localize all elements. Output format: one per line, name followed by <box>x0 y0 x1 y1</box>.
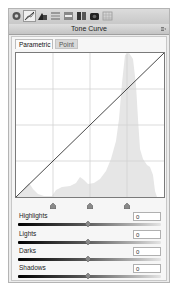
presets-icon[interactable] <box>102 11 113 21</box>
panel-menu-icon[interactable] <box>161 27 166 31</box>
panel-toolbar <box>9 9 169 25</box>
lights-value-input[interactable]: 0 <box>133 230 161 239</box>
shadows-label: Shadows <box>19 264 46 271</box>
lights-label: Lights <box>19 230 36 237</box>
panel-title-bar: Tone Curve <box>9 24 169 35</box>
lens-corrections-icon[interactable] <box>76 11 87 21</box>
panel-content: Parametric Point <box>11 36 167 281</box>
highlights-value-input[interactable]: 0 <box>133 212 161 221</box>
tone-curve-icon[interactable] <box>24 11 35 21</box>
detail-icon[interactable] <box>63 11 74 21</box>
split-toning-icon[interactable] <box>50 11 61 21</box>
highlights-label: Highlights <box>19 212 48 219</box>
highlights-slider-thumb[interactable] <box>85 221 91 227</box>
lights-slider-thumb[interactable] <box>85 239 91 245</box>
split-handle-highlights[interactable] <box>124 203 130 209</box>
split-handle-shadows[interactable] <box>50 203 56 209</box>
camera-calibration-icon[interactable] <box>89 11 100 21</box>
darks-label: Darks <box>19 247 36 254</box>
darks-slider-thumb[interactable] <box>85 256 91 262</box>
split-handle-midtones[interactable] <box>87 203 93 209</box>
tone-curve-panel: Tone Curve Parametric Point <box>8 8 170 283</box>
curve-canvas <box>16 53 164 197</box>
tab-parametric[interactable]: Parametric <box>15 39 53 49</box>
shadows-slider-thumb[interactable] <box>85 273 91 279</box>
basic-settings-icon[interactable] <box>11 11 22 21</box>
tone-curve-graph[interactable] <box>15 52 165 198</box>
hsl-icon[interactable] <box>37 11 48 21</box>
panel-title: Tone Curve <box>71 25 107 32</box>
tab-point[interactable]: Point <box>55 39 78 49</box>
darks-value-input[interactable]: 0 <box>133 247 161 256</box>
shadows-value-input[interactable]: 0 <box>133 264 161 273</box>
